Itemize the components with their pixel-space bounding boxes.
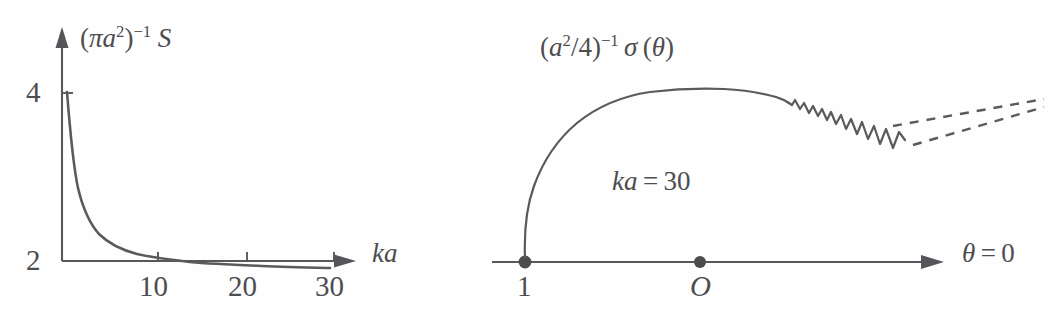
right-title-exp2: 2 bbox=[563, 31, 571, 50]
ka-annotation-equals: = bbox=[643, 166, 658, 196]
right-title-close: ) bbox=[592, 32, 601, 62]
right-axis-arrowhead bbox=[921, 255, 944, 269]
right-title-a: a bbox=[549, 32, 563, 62]
left-x-axis-title: ka bbox=[372, 240, 397, 267]
left-panel-graphics bbox=[56, 27, 357, 268]
right-curve bbox=[525, 89, 905, 258]
left-x-axis-arrowhead bbox=[334, 255, 356, 268]
left-title-pi: π bbox=[89, 23, 103, 53]
left-y-axis-arrowhead bbox=[56, 27, 69, 48]
left-x-tick-label-20: 20 bbox=[228, 272, 257, 301]
dashed-ray-lower bbox=[913, 107, 1044, 145]
theta-value: 0 bbox=[1001, 238, 1015, 268]
point-label-origin: O bbox=[690, 272, 711, 301]
right-title-open: ( bbox=[540, 32, 549, 62]
right-title-theta-open: ( bbox=[643, 32, 652, 62]
theta-equals: = bbox=[981, 238, 996, 268]
ka-annotation-value: 30 bbox=[664, 166, 691, 196]
right-title-theta-close: ) bbox=[665, 32, 674, 62]
theta-symbol: θ bbox=[962, 238, 975, 268]
right-title-sigma: σ bbox=[624, 32, 637, 62]
ka-annotation-symbol: ka bbox=[612, 166, 637, 196]
left-title-exp-minus1: −1 bbox=[133, 22, 151, 41]
right-title-slash: /4 bbox=[571, 32, 592, 62]
left-y-tick-label-2: 2 bbox=[26, 246, 41, 275]
left-title-a: a bbox=[103, 23, 117, 53]
left-x-tick-label-10: 10 bbox=[139, 272, 168, 301]
dashed-ray-upper bbox=[893, 99, 1044, 126]
left-curve bbox=[67, 92, 330, 268]
left-y-tick-label-4: 4 bbox=[26, 78, 41, 107]
left-y-axis-title: (πa2)−1 S bbox=[80, 24, 171, 52]
right-title-exp-minus1: −1 bbox=[601, 31, 619, 50]
figure-container: (πa2)−1 S 4 2 10 20 30 ka (a2/4)−1 σ (θ)… bbox=[0, 0, 1064, 323]
point-dot-origin bbox=[694, 256, 706, 268]
right-panel-title: (a2/4)−1 σ (θ) bbox=[540, 33, 674, 61]
left-x-tick-label-30: 30 bbox=[315, 272, 344, 301]
ka-annotation: ka = 30 bbox=[612, 168, 691, 195]
left-title-S: S bbox=[158, 23, 172, 53]
left-title-open: ( bbox=[80, 23, 89, 53]
theta-axis-label: θ = 0 bbox=[962, 240, 1015, 267]
right-title-theta: θ bbox=[652, 32, 665, 62]
point-label-1: 1 bbox=[517, 272, 532, 301]
